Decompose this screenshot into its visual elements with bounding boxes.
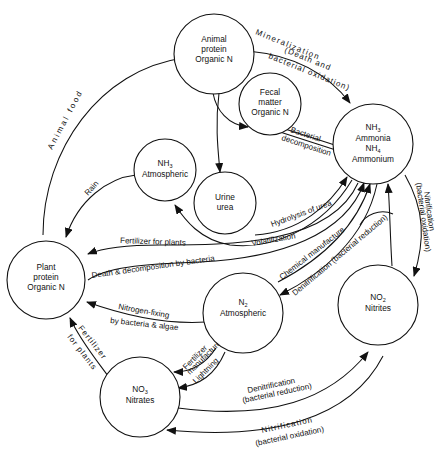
edge-hydrolysis — [255, 177, 347, 235]
label-volatilization: Volatilization — [251, 231, 296, 248]
node-nitrites: NO2 Nitrites — [338, 265, 418, 345]
node-label: matter — [258, 97, 282, 107]
node-nitrates: NO3 Nitrates — [100, 357, 180, 437]
label-animal-food: Animal food — [46, 88, 85, 151]
label-death-decomposition: Death & decomposition by bacteria — [91, 254, 216, 280]
node-label: Animal — [201, 34, 227, 44]
node-ammonia: NH3 Ammonia NH4 Ammonium — [333, 104, 413, 184]
label-rain: Rain — [83, 179, 101, 197]
node-label: Fecal — [260, 87, 280, 97]
edge-animal-to-urine — [217, 93, 220, 172]
node-label: Nitrates — [126, 395, 155, 405]
node-nh3-atmospheric: NH3 Atmospheric — [134, 139, 196, 201]
node-label: protein — [33, 272, 59, 282]
node-label: urea — [217, 202, 234, 212]
node-label: Nitrites — [365, 303, 391, 313]
nitrogen-cycle-diagram: Animal food Mineralization (Death and ba… — [0, 0, 445, 461]
node-plant-protein: Plant protein Organic N — [7, 241, 85, 319]
node-label: Organic N — [27, 282, 64, 292]
node-fecal-matter: Fecal matter Organic N — [239, 73, 301, 135]
node-label: Urine — [215, 192, 235, 202]
node-label: protein — [201, 44, 227, 54]
edge-nitrites-to-ammonia — [388, 184, 392, 266]
node-label: Organic N — [195, 54, 232, 64]
edge-rain — [66, 175, 136, 237]
node-label: Organic N — [251, 107, 288, 117]
node-animal-protein: Animal protein Organic N — [174, 14, 254, 94]
node-n2-atmospheric: N2 Atmospheric — [203, 273, 283, 353]
node-label: Ammonium — [352, 154, 394, 164]
node-label: Ammonia — [355, 133, 390, 143]
node-urine: Urine urea — [194, 172, 256, 234]
label-nitrogen-fixing-2: by bacteria & algae — [110, 316, 180, 332]
node-label: Atmospheric — [142, 169, 188, 179]
node-label: Atmospheric — [220, 308, 266, 318]
node-label: Plant — [37, 262, 57, 272]
